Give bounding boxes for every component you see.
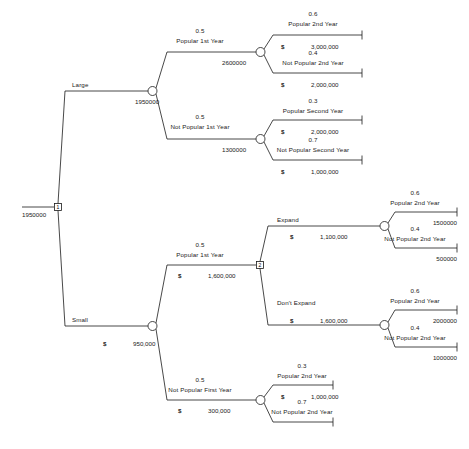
expand-value: $1,100,000 xyxy=(290,234,348,240)
payoff-t9-amount: 1,000,000 xyxy=(311,394,339,400)
payoff-t8: 1000000 xyxy=(433,355,457,361)
branch-label-large: Large xyxy=(72,82,88,88)
prob-expand-notpop-2nd: 0.4 xyxy=(411,226,420,232)
prob-large-notpopular1: 0.5 xyxy=(196,114,205,120)
prob-large-popular1: 0.5 xyxy=(196,28,205,34)
branch-label-small-popular1: Popular 1st Year xyxy=(176,252,223,258)
prob-large-pop-2nd: 0.6 xyxy=(309,11,318,17)
expand-amount: 1,100,000 xyxy=(320,234,348,240)
large-pop-chance-node xyxy=(256,48,265,57)
small-chance-value: $950,000 xyxy=(103,341,155,347)
prob-large-pop-second: 0.3 xyxy=(309,98,318,104)
branch-large-line xyxy=(58,91,148,204)
branch-label-expand-pop-2nd: Popular 2nd Year xyxy=(390,200,439,206)
small-notpop-chance-node xyxy=(256,396,265,405)
branch-label-large-notpopular1: Not Popular 1st Year xyxy=(170,124,229,130)
root-node-id: 1 xyxy=(57,205,60,210)
branch-label-noexp-notpop-2nd: Not Popular 2nd Year xyxy=(384,335,445,341)
payoff-t9: $1,000,000 xyxy=(281,394,339,400)
decision-tree-canvas: 1 1950000 Large Small 1950000 $950,000 0… xyxy=(0,0,469,449)
prob-noexp-pop-2nd: 0.6 xyxy=(411,288,420,294)
decision-node-2-id: 2 xyxy=(259,263,262,268)
prob-small-popular1: 0.5 xyxy=(196,242,205,248)
small-notpopular1-amount: 300,000 xyxy=(208,408,230,414)
small-popular1-amount: 1,600,000 xyxy=(208,273,236,279)
branch-large-popular1-line xyxy=(156,52,256,88)
dollar-sign: $ xyxy=(281,82,311,88)
dollar-sign: $ xyxy=(290,234,320,240)
payoff-t2-amount: 2,000,000 xyxy=(311,82,339,88)
branch-label-large-notpop-second: Not Popular Second Year xyxy=(277,147,349,153)
payoff-t3: $2,000,000 xyxy=(281,129,339,135)
small-chance-amount: 950,000 xyxy=(133,341,155,347)
dont-expand-value: $1,600,000 xyxy=(290,318,348,324)
prob-small-np-notpop-2nd: 0.7 xyxy=(298,399,307,405)
payoff-t5: 1500000 xyxy=(433,220,457,226)
dollar-sign: $ xyxy=(178,273,208,279)
branch-label-large-popular1: Popular 1st Year xyxy=(176,38,223,44)
root-node-value: 1950000 xyxy=(22,212,46,218)
prob-expand-pop-2nd: 0.6 xyxy=(411,190,420,196)
branch-label-small-np-pop-2nd: Popular 2nd Year xyxy=(277,373,326,379)
small-notpopular1-value: $300,000 xyxy=(178,408,230,414)
branch-label-dont-expand: Don't Expand xyxy=(277,300,315,306)
prob-large-notpop-2nd: 0.4 xyxy=(309,50,318,56)
payoff-t4: $1,000,000 xyxy=(281,169,339,175)
branch-label-small: Small xyxy=(72,317,88,323)
large-notpop-chance-node xyxy=(256,135,265,144)
branch-label-large-pop-2nd: Popular 2nd Year xyxy=(288,21,337,27)
dont-expand-amount: 1,600,000 xyxy=(320,318,348,324)
branch-expand-line xyxy=(260,226,380,262)
branch-label-small-notpopular1: Not Popular First Year xyxy=(168,387,231,393)
branch-label-large-pop-second: Popular Second Year xyxy=(283,108,344,114)
prob-noexp-notpop-2nd: 0.4 xyxy=(411,325,420,331)
branch-label-expand-notpop-2nd: Not Popular 2nd Year xyxy=(384,236,445,242)
branch-large-notpopular1-line xyxy=(156,94,256,139)
prob-small-np-pop-2nd: 0.3 xyxy=(298,363,307,369)
branch-label-large-notpop-2nd: Not Popular 2nd Year xyxy=(282,60,343,66)
prob-small-notpopular1: 0.5 xyxy=(196,377,205,383)
decision-tree-lines xyxy=(0,0,469,449)
dollar-sign: $ xyxy=(281,44,311,50)
dollar-sign: $ xyxy=(103,341,133,347)
large-pop-chance-value: 2600000 xyxy=(222,60,246,66)
branch-label-expand: Expand xyxy=(277,217,299,223)
dollar-sign: $ xyxy=(290,318,320,324)
payoff-t6: 500000 xyxy=(436,256,457,262)
payoff-t4-amount: 1,000,000 xyxy=(311,169,339,175)
dollar-sign: $ xyxy=(281,129,311,135)
payoff-t7: 2000000 xyxy=(433,318,457,324)
branch-label-small-np-notpop-2nd: Not Popular 2nd Year xyxy=(271,409,332,415)
branch-small-line xyxy=(58,211,148,327)
large-chance-value: 1950000 xyxy=(135,99,159,105)
branch-label-noexp-pop-2nd: Popular 2nd Year xyxy=(390,298,439,304)
payoff-t2: $2,000,000 xyxy=(281,82,339,88)
payoff-t3-amount: 2,000,000 xyxy=(311,129,339,135)
large-notpop-chance-value: 1300000 xyxy=(222,147,246,153)
dollar-sign: $ xyxy=(178,408,208,414)
prob-large-notpop-second: 0.7 xyxy=(309,137,318,143)
dollar-sign: $ xyxy=(281,169,311,175)
small-popular1-value: $1,600,000 xyxy=(178,273,236,279)
